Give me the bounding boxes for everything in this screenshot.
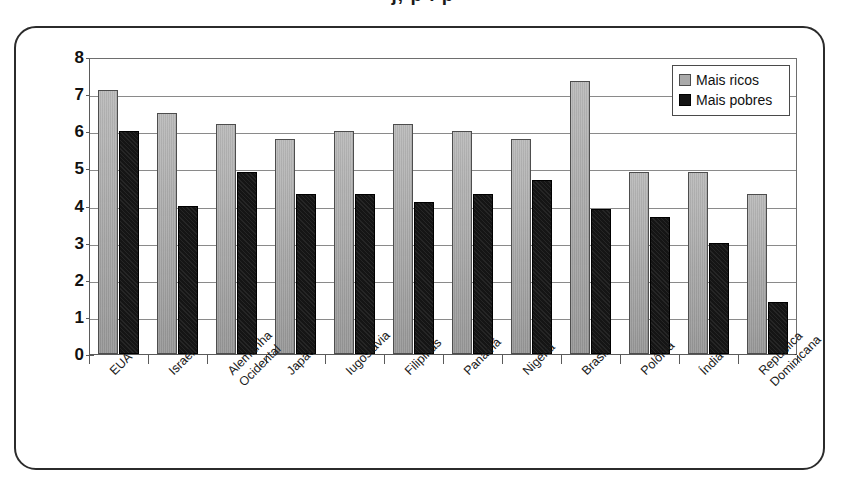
legend-item: Mais ricos [679, 70, 783, 90]
bar-mais-pobres [355, 194, 376, 354]
rich-swatch-icon [679, 74, 691, 86]
y-axis-tick-label: 8 [54, 48, 84, 68]
bar-mais-ricos [157, 113, 178, 354]
bar-mais-pobres [473, 194, 494, 354]
y-axis-tick-label: 0 [54, 345, 84, 365]
y-axis-tick-label: 6 [54, 122, 84, 142]
bar-mais-ricos [688, 172, 709, 354]
bar-mais-pobres [650, 217, 671, 354]
bar-mais-pobres [414, 202, 435, 354]
bar-mais-pobres [532, 180, 553, 354]
y-axis-tick-label: 5 [54, 159, 84, 179]
y-axis-tick-labels: 012345678 [52, 58, 84, 355]
bar-mais-pobres [178, 206, 199, 355]
bar-mais-ricos [452, 131, 473, 354]
legend-item-label: Mais pobres [696, 92, 772, 108]
bar-mais-ricos [275, 139, 296, 354]
y-axis-tick-label: 7 [54, 85, 84, 105]
bar-mais-ricos [216, 124, 237, 354]
y-axis-tick-label: 4 [54, 197, 84, 217]
bar-mais-ricos [747, 194, 768, 354]
bar-mais-ricos [393, 124, 414, 354]
bar-mais-pobres [709, 243, 730, 354]
bar-mais-pobres [296, 194, 317, 354]
bar-mais-ricos [98, 90, 119, 354]
bar-mais-ricos [334, 131, 355, 354]
y-axis-tick-label: 2 [54, 271, 84, 291]
y-axis-tick-label: 3 [54, 234, 84, 254]
y-axis-tick-label: 1 [54, 308, 84, 328]
bar-mais-ricos [570, 81, 591, 354]
bar-mais-ricos [511, 139, 532, 354]
bar-mais-pobres [119, 131, 140, 354]
legend: Mais ricosMais pobres [672, 65, 790, 116]
poor-swatch-icon [679, 94, 691, 106]
legend-item: Mais pobres [679, 90, 783, 110]
bar-mais-pobres [237, 172, 258, 354]
x-axis-tick-labels: EUAIsraelAlemanhaOcidentalJapãoIugoslávi… [89, 360, 829, 460]
bar-mais-ricos [629, 172, 650, 354]
gridline [90, 133, 796, 134]
caption-fragment: l l f l l [0, 477, 846, 489]
legend-item-label: Mais ricos [696, 72, 759, 88]
bar-chart: Índice Cantril de felicidade pessoal 012… [0, 0, 846, 489]
bar-mais-pobres [591, 209, 612, 354]
